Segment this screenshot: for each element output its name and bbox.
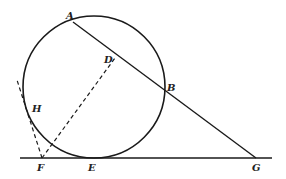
point-label-f: F [37, 163, 44, 173]
point-label-d: D [104, 55, 113, 65]
point-label-e: E [88, 163, 96, 173]
point-label-g: G [252, 163, 261, 173]
dashed-line-fd [42, 58, 115, 158]
point-label-b: B [167, 83, 175, 93]
dashed-tangent-fh [17, 80, 42, 158]
secant-line-ag [73, 22, 256, 158]
geometry-diagram [0, 0, 286, 179]
point-label-h: H [32, 104, 41, 114]
point-label-a: A [66, 11, 74, 21]
